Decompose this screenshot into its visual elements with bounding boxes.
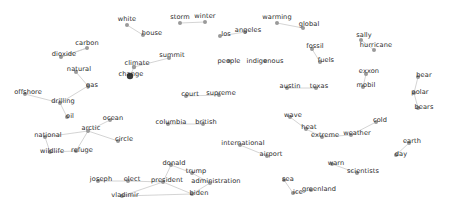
graph-node-label-national: national	[34, 132, 62, 139]
graph-node-warming[interactable]	[275, 21, 279, 25]
graph-node-winter[interactable]	[203, 20, 207, 24]
graph-node-label-greenland: greenland	[302, 186, 336, 193]
graph-node-label-climate: climate	[124, 60, 149, 67]
graph-node-label-supreme: supreme	[206, 90, 236, 97]
graph-node-label-indigenous: indigenous	[246, 58, 283, 65]
graph-node-label-angeles: angeles	[235, 27, 262, 34]
graph-node-label-oil: oil	[66, 113, 74, 120]
graph-node-label-earth: earth	[403, 138, 421, 145]
graph-node-white[interactable]	[125, 23, 129, 27]
graph-node-label-circle: circle	[115, 136, 133, 143]
graph-node-label-offshore: offshore	[14, 89, 42, 96]
graph-node-label-global: global	[299, 21, 320, 28]
graph-node-label-fuels: fuels	[318, 57, 334, 64]
graph-node-label-cold: cold	[373, 117, 387, 124]
graph-node-label-dioxide: dioxide	[52, 51, 77, 58]
graph-node-label-carbon: carbon	[75, 40, 98, 47]
graph-node-label-scientists: scientists	[347, 168, 379, 175]
network-graph-figure: whitehousestormwinterwarmingglobalsallyh…	[0, 0, 449, 217]
graph-node-label-los: los	[221, 31, 231, 38]
graph-node-label-bear: bear	[416, 72, 431, 79]
graph-node-label-sea: sea	[282, 176, 294, 183]
graph-node-label-british: british	[195, 119, 216, 126]
graph-edge	[88, 131, 118, 141]
graph-node-label-austin: austin	[280, 83, 301, 90]
graph-node-label-airport: airport	[260, 151, 283, 158]
graph-node-label-sally: sally	[356, 32, 372, 39]
graph-node-label-weather: weather	[343, 130, 371, 137]
graph-node-label-columbia: columbia	[156, 119, 187, 126]
graph-node-label-change: change	[119, 71, 144, 78]
graph-node-label-donald: donald	[162, 160, 185, 167]
graph-node-label-gas: gas	[86, 82, 98, 89]
graph-node-label-people: people	[218, 58, 241, 65]
graph-node-label-warn: warn	[328, 160, 345, 167]
graph-node-label-arctic: arctic	[82, 125, 101, 132]
graph-node-label-elect: elect	[124, 176, 141, 183]
graph-node-label-biden: biden	[190, 190, 209, 197]
graph-node-label-refuge: refuge	[71, 147, 93, 154]
graph-node-label-president: president	[151, 177, 183, 184]
graph-node-label-wave: wave	[284, 112, 302, 119]
graph-node-label-house: house	[142, 30, 162, 37]
graph-edge	[180, 22, 205, 23]
graph-node-label-warming: warming	[262, 14, 291, 21]
graph-node-label-extreme: extreme	[311, 132, 339, 139]
graph-node-label-bears: bears	[415, 104, 434, 111]
graph-node-label-ocean: ocean	[103, 115, 123, 122]
graph-node-label-drilling: drilling	[51, 98, 74, 105]
graph-node-label-natural: natural	[67, 66, 91, 73]
graph-node-label-winter: winter	[194, 13, 215, 20]
graph-node-label-trump: trump	[186, 168, 207, 175]
graph-node-label-court: court	[181, 91, 199, 98]
graph-node-label-heat: heat	[301, 124, 316, 131]
graph-node-label-wildlife: wildlife	[40, 148, 64, 155]
graph-node-label-international: international	[221, 140, 264, 147]
graph-edge	[127, 25, 143, 35]
graph-node-label-summit: summit	[159, 52, 184, 59]
graph-node-storm[interactable]	[178, 21, 182, 25]
graph-node-label-hurricane: hurricane	[360, 42, 392, 49]
graph-node-label-mobil: mobil	[357, 82, 376, 89]
graph-node-label-day: day	[395, 151, 407, 158]
graph-node-label-vladimir: vladimir	[111, 192, 139, 199]
graph-node-label-white: white	[118, 16, 137, 23]
graph-edge	[163, 182, 192, 194]
graph-node-label-fossil: fossil	[306, 43, 324, 50]
graph-node-label-texas: texas	[310, 83, 328, 90]
graph-node-label-joseph: joseph	[90, 176, 112, 183]
graph-node-label-administration: administration	[191, 178, 240, 185]
graph-node-label-storm: storm	[170, 14, 190, 21]
graph-node-label-exxon: exxon	[359, 68, 379, 75]
graph-node-label-polar: polar	[411, 89, 428, 96]
